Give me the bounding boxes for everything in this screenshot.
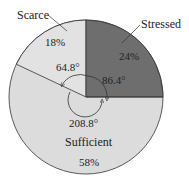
percent-scarce: 18%	[45, 36, 65, 48]
label-sufficient: Sufficient	[65, 135, 113, 149]
percent-stressed: 24%	[119, 50, 139, 62]
angle-label-stressed: 86.4°	[102, 74, 126, 86]
angle-label-sufficient: 208.8°	[69, 117, 98, 129]
percent-sufficient: 58%	[79, 156, 99, 168]
label-scarce: Scarce	[17, 8, 49, 22]
label-stressed: Stressed	[141, 17, 181, 31]
pie-chart: Scarce Stressed 18% 24% 64.8° 86.4° 208.…	[0, 0, 189, 191]
angle-label-scarce: 64.8°	[56, 61, 80, 73]
